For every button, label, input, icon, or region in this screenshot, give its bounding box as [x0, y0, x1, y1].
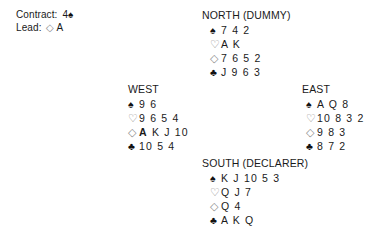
hand-east-spades: ♠A Q 8: [300, 97, 365, 111]
hand-north: NORTH (DUMMY) ♠7 4 2 ♡A K ◇7 6 5 2 ♣J 9 …: [204, 8, 291, 79]
spade-icon: ♠: [128, 97, 139, 111]
hand-east-hearts-cards: 10 8 3 2: [317, 111, 365, 125]
hand-south-clubs: ♣A K Q: [204, 213, 308, 227]
hand-west-clubs-cards: 10 5 4: [139, 139, 175, 153]
lead-card-highlight: A: [139, 126, 148, 138]
hand-west-hearts-cards: 9 6 5 4: [139, 111, 180, 125]
hand-east-diamonds-cards: 9 8 3: [317, 125, 346, 139]
club-icon: ♣: [210, 65, 221, 79]
hand-north-diamonds-cards: 7 6 5 2: [221, 51, 262, 65]
club-icon: ♣: [306, 139, 317, 153]
hand-west-hearts: ♡9 6 5 4: [128, 111, 189, 125]
hand-south-hearts: ♡Q J 7: [204, 185, 308, 199]
hand-east: EAST ♠A Q 8 ♡10 8 3 2 ◇9 8 3 ♣8 7 2: [300, 82, 365, 153]
hand-north-spades: ♠7 4 2: [204, 23, 291, 37]
heart-icon: ♡: [210, 37, 221, 51]
hand-west: WEST ♠9 6 ♡9 6 5 4 ◇A K J 10 ♣10 5 4: [128, 82, 189, 153]
hand-south-clubs-cards: A K Q: [221, 213, 254, 227]
hand-south-hearts-cards: Q J 7: [221, 185, 252, 199]
heart-icon: ♡: [210, 185, 221, 199]
diamond-icon: ◇: [306, 125, 317, 139]
lead-card: A: [55, 21, 64, 34]
hand-north-title: NORTH (DUMMY): [202, 8, 291, 22]
hand-west-diamonds-rest: K J 10: [152, 126, 189, 138]
hand-west-spades-cards: 9 6: [139, 97, 157, 111]
hand-south-spades: ♠K J 10 5 3: [204, 171, 308, 185]
club-icon: ♣: [210, 213, 221, 227]
diamond-icon: ◇: [128, 125, 139, 139]
spade-icon: ♠: [306, 97, 317, 111]
hand-north-clubs: ♣J 9 6 3: [204, 65, 291, 79]
hand-north-diamonds: ◇7 6 5 2: [204, 51, 291, 65]
hand-west-spades: ♠9 6: [128, 97, 189, 111]
hand-south-diamonds-cards: Q 4: [221, 199, 242, 213]
heart-icon: ♡: [306, 111, 317, 125]
hand-south-title: SOUTH (DECLARER): [202, 156, 308, 170]
hand-west-clubs: ♣10 5 4: [128, 139, 189, 153]
lead-row: Lead: ◇A: [16, 21, 73, 34]
hand-west-title: WEST: [128, 82, 189, 96]
hand-east-clubs-cards: 8 7 2: [317, 139, 346, 153]
hand-east-title: EAST: [302, 82, 365, 96]
spade-icon: ♠: [210, 171, 221, 185]
hand-north-hearts: ♡A K: [204, 37, 291, 51]
contract-row: Contract: 4♠: [16, 8, 73, 21]
hand-north-hearts-cards: A K: [221, 37, 241, 51]
hand-south: SOUTH (DECLARER) ♠K J 10 5 3 ♡Q J 7 ◇Q 4…: [204, 156, 308, 227]
contract-info: Contract: 4♠ Lead: ◇A: [16, 8, 73, 34]
hand-north-clubs-cards: J 9 6 3: [221, 65, 261, 79]
hand-east-diamonds: ◇9 8 3: [300, 125, 365, 139]
hand-south-spades-cards: K J 10 5 3: [221, 171, 280, 185]
diamond-icon: ◇: [210, 51, 221, 65]
hand-west-diamonds: ◇A K J 10: [128, 125, 189, 139]
contract-label: Contract:: [16, 8, 57, 21]
spade-icon: ♠: [68, 9, 73, 20]
club-icon: ♣: [128, 139, 139, 153]
bridge-hand-diagram: Contract: 4♠ Lead: ◇A NORTH (DUMMY) ♠7 4…: [0, 0, 382, 235]
heart-icon: ♡: [128, 111, 139, 125]
spade-icon: ♠: [210, 23, 221, 37]
hand-east-hearts: ♡10 8 3 2: [300, 111, 365, 125]
hand-west-diamonds-cards: A K J 10: [139, 125, 189, 139]
hand-south-diamonds: ◇Q 4: [204, 199, 308, 213]
hand-east-clubs: ♣8 7 2: [300, 139, 365, 153]
diamond-icon: ◇: [210, 199, 221, 213]
diamond-icon: ◇: [46, 22, 54, 33]
hand-north-spades-cards: 7 4 2: [221, 23, 250, 37]
contract-level: 4: [60, 8, 68, 21]
hand-east-spades-cards: A Q 8: [317, 97, 349, 111]
lead-label: Lead:: [16, 21, 44, 34]
